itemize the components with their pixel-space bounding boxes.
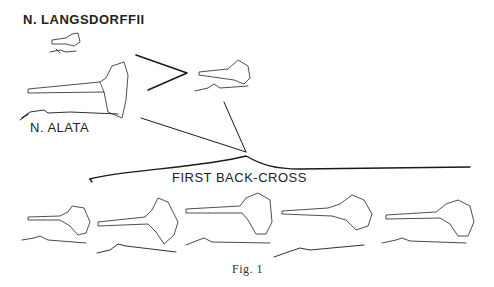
backcross-flower-2-icon <box>97 198 178 253</box>
backcross-flower-1-icon <box>22 206 90 243</box>
label-langsdorffii: N. LANGSDORFFII <box>23 12 145 27</box>
backcross-flower-4-icon <box>274 195 372 257</box>
figure-caption: Fig. 1 <box>232 262 263 277</box>
connector-line <box>141 118 246 152</box>
alata-flower-icon <box>20 62 128 120</box>
connector-line <box>224 102 246 152</box>
figure-drawing <box>0 0 494 287</box>
label-alata: N. ALATA <box>30 120 89 135</box>
label-first-back-cross: FIRST BACK-CROSS <box>172 170 307 185</box>
backcross-flower-3-icon <box>186 193 272 245</box>
f1-hybrid-flower-icon <box>195 60 250 91</box>
langsdorffii-flower-icon <box>50 33 80 53</box>
backcross-flower-5-icon <box>382 200 474 243</box>
cross-arrow <box>136 55 187 90</box>
